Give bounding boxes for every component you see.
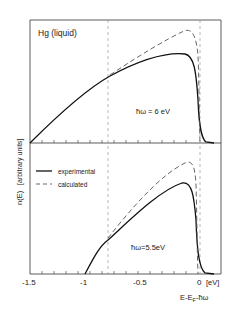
x-axis-label: E-EF-ħω xyxy=(180,293,209,303)
x-unit-label: [eV] xyxy=(206,278,219,287)
tick-label-m0.5: -0.5 xyxy=(133,278,147,287)
chart-title: Hg (liquid) xyxy=(38,28,77,38)
panel2-annotation: ħω=5.5eV xyxy=(131,243,165,252)
upper-experimental-curve xyxy=(30,54,214,143)
plot-frame xyxy=(30,20,221,274)
y-axis-units: [arbitrary units] xyxy=(16,139,24,185)
y-axis-label: n(E) xyxy=(15,190,24,205)
tick-label-m1: -1 xyxy=(80,278,88,287)
chart-figure: Hg (liquid) ħω = 6 eV ħω=5.5eV n(E) [arb… xyxy=(0,0,237,317)
legend-experimental: experimental xyxy=(58,168,96,176)
lower-calculated-curve xyxy=(108,162,198,274)
lower-experimental-curve xyxy=(85,183,214,274)
panel1-annotation: ħω = 6 eV xyxy=(136,107,170,116)
tick-label-m1.5: -1.5 xyxy=(22,278,36,287)
upper-calculated-curve xyxy=(110,30,200,143)
legend-calculated: calculated xyxy=(58,181,88,188)
legend: experimental calculated xyxy=(36,168,96,188)
tick-label-0: 0 xyxy=(197,278,202,287)
x-ticks xyxy=(42,140,186,274)
